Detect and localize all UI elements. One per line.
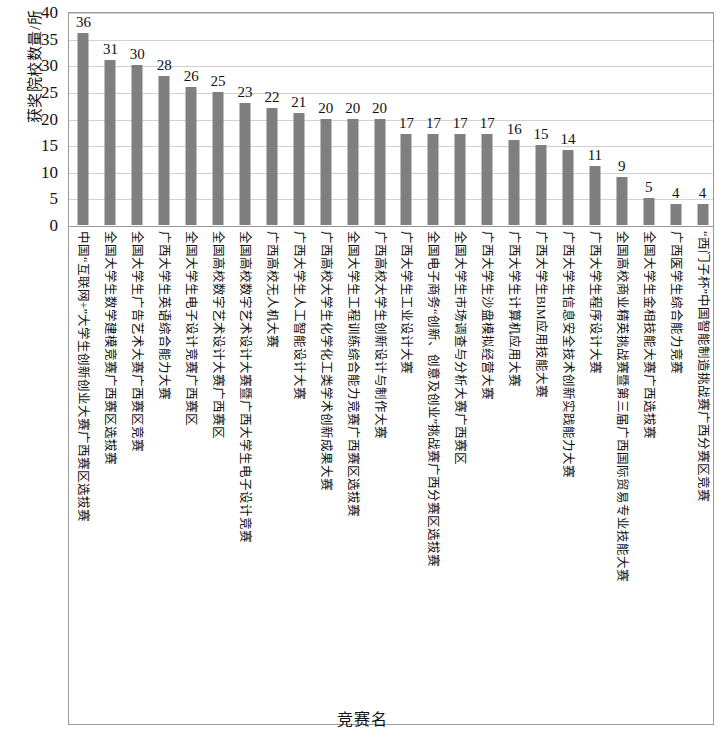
bar-value-label: 17 xyxy=(480,116,495,131)
x-axis-label-slot: 全国大学生广告艺术大赛广西赛区竞赛 xyxy=(124,225,150,695)
x-axis-label-slot: “西门子杯”中国智能制造挑战赛广西分赛区竞赛 xyxy=(690,225,716,695)
bar-slot[interactable]: 20 xyxy=(313,12,339,225)
bar-slot[interactable]: 15 xyxy=(528,12,554,225)
y-axis-tick-labels: 0510152025303540 xyxy=(0,12,66,225)
bar-slot[interactable]: 4 xyxy=(690,12,716,225)
bar-slot[interactable]: 11 xyxy=(582,12,608,225)
bar[interactable] xyxy=(213,92,224,225)
x-axis-category-label: 全国大学生工程训练综合能力竞赛广西赛区选拔赛 xyxy=(346,231,359,517)
y-axis-tick-label: 5 xyxy=(50,190,59,207)
x-axis-label-slot: 全国大学生金相技能大赛广西选拔赛 xyxy=(636,225,662,695)
bar-slot[interactable]: 20 xyxy=(340,12,366,225)
bar-slot[interactable]: 5 xyxy=(636,12,662,225)
x-axis-label-slot: 广西医学生综合能力竞赛 xyxy=(663,225,689,695)
x-axis-label-slot: 全国大学生市场调查与分析大赛广西赛区 xyxy=(447,225,473,695)
bar-slot[interactable]: 31 xyxy=(97,12,123,225)
x-axis-label-slot: 广西大学生英语综合能力大赛 xyxy=(151,225,177,695)
bar-value-label: 17 xyxy=(426,116,441,131)
bar-value-label: 15 xyxy=(534,127,549,142)
bar-value-label: 16 xyxy=(507,122,522,137)
bar-slot[interactable]: 14 xyxy=(555,12,581,225)
bar-slot[interactable]: 21 xyxy=(286,12,312,225)
bar[interactable] xyxy=(455,134,466,225)
x-axis-label-slot: 广西大学生程序设计大赛 xyxy=(582,225,608,695)
x-axis-category-label: 广西大学生工业设计大赛 xyxy=(400,231,413,374)
bar-slot[interactable]: 22 xyxy=(259,12,285,225)
bar-value-label: 21 xyxy=(291,95,306,110)
x-axis-category-label: 广西大学生计算机应用大赛 xyxy=(508,231,521,387)
bar-value-label: 20 xyxy=(345,101,360,116)
x-axis-category-label: 广西大学生英语综合能力大赛 xyxy=(158,231,171,400)
bar-slot[interactable]: 17 xyxy=(393,12,419,225)
bar[interactable] xyxy=(78,33,89,225)
bar-value-label: 17 xyxy=(453,116,468,131)
x-axis-label-slot: 全国高校商业精英挑战赛暨第三届广西国际贸易专业技能大赛 xyxy=(609,225,635,695)
bar[interactable] xyxy=(105,60,116,225)
bar[interactable] xyxy=(589,166,600,225)
bar[interactable] xyxy=(697,204,708,225)
bar-value-label: 30 xyxy=(130,47,145,62)
bar-slot[interactable]: 9 xyxy=(609,12,635,225)
bar[interactable] xyxy=(293,113,304,225)
bar[interactable] xyxy=(616,177,627,225)
x-axis-label-slot: 广西高校大学生创新设计与制作大赛 xyxy=(367,225,393,695)
bar-value-label: 14 xyxy=(560,132,575,147)
bar-slot[interactable]: 36 xyxy=(70,12,96,225)
x-axis-category-labels: 中国“互联网+”大学生创新创业大赛广西赛区选拔赛全国大学生数学建模竞赛广西赛区选… xyxy=(68,225,714,695)
x-axis-label-slot: 中国“互联网+”大学生创新创业大赛广西赛区选拔赛 xyxy=(70,225,96,695)
bar-slot[interactable]: 4 xyxy=(663,12,689,225)
bar[interactable] xyxy=(186,87,197,225)
bar[interactable] xyxy=(670,204,681,225)
bar[interactable] xyxy=(536,145,547,225)
bar[interactable] xyxy=(509,140,520,225)
x-axis-category-label: 全国电子商务“创新、创意及创业”挑战赛广西分赛区选拔赛 xyxy=(427,231,440,567)
bar[interactable] xyxy=(401,134,412,225)
x-axis-label-slot: 全国电子商务“创新、创意及创业”挑战赛广西分赛区选拔赛 xyxy=(420,225,446,695)
y-axis-tick-label: 10 xyxy=(41,163,58,180)
bar-slot[interactable]: 17 xyxy=(474,12,500,225)
bars-layer: 3631302826252322212020201717171716151411… xyxy=(68,12,714,225)
x-axis-category-label: 广西高校大学生创新设计与制作大赛 xyxy=(373,231,386,439)
x-axis-category-label: 全国高校数字艺术设计大赛暨广西大学生电子设计竞赛 xyxy=(239,231,252,543)
x-axis-category-label: 广西大学生BIM应用技能大赛 xyxy=(535,231,548,398)
bar-slot[interactable]: 20 xyxy=(367,12,393,225)
x-axis-category-label: 全国大学生金相技能大赛广西选拔赛 xyxy=(642,231,655,439)
bar-slot[interactable]: 23 xyxy=(232,12,258,225)
bar-slot[interactable]: 17 xyxy=(420,12,446,225)
bar[interactable] xyxy=(374,119,385,226)
x-axis-label-slot: 全国高校数字艺术设计大赛广西赛区 xyxy=(205,225,231,695)
bar[interactable] xyxy=(482,134,493,225)
x-axis-label-slot: 全国大学生电子设计竞赛广西赛区 xyxy=(178,225,204,695)
bar[interactable] xyxy=(239,103,250,225)
x-axis-category-label: 广西高校大学生化学化工类学术创新成果大赛 xyxy=(319,231,332,491)
bar-slot[interactable]: 26 xyxy=(178,12,204,225)
x-axis-label-slot: 广西大学生工业设计大赛 xyxy=(393,225,419,695)
bar-value-label: 26 xyxy=(184,69,199,84)
bar[interactable] xyxy=(562,150,573,225)
x-axis-category-label: 广西大学生信息安全技术创新实践能力大赛 xyxy=(562,231,575,478)
bar-slot[interactable]: 25 xyxy=(205,12,231,225)
x-axis-category-label: 广西大学生人工智能设计大赛 xyxy=(293,231,306,400)
x-axis-category-label: 广西医学生综合能力竞赛 xyxy=(669,231,682,374)
bar-slot[interactable]: 17 xyxy=(447,12,473,225)
bar[interactable] xyxy=(320,119,331,226)
bar-value-label: 20 xyxy=(318,101,333,116)
bar-slot[interactable]: 16 xyxy=(501,12,527,225)
bar[interactable] xyxy=(643,198,654,225)
bar-value-label: 31 xyxy=(103,42,118,57)
bar-slot[interactable]: 28 xyxy=(151,12,177,225)
x-axis-category-label: 广西大学生程序设计大赛 xyxy=(589,231,602,374)
bar-value-label: 22 xyxy=(264,90,279,105)
x-axis-title: 竞赛名 xyxy=(0,706,724,730)
bar-value-label: 17 xyxy=(399,116,414,131)
x-axis-category-label: 全国大学生数学建模竞赛广西赛区选拔赛 xyxy=(104,231,117,465)
bar[interactable] xyxy=(428,134,439,225)
bar[interactable] xyxy=(132,65,143,225)
bar[interactable] xyxy=(266,108,277,225)
bar[interactable] xyxy=(159,76,170,225)
bar-slot[interactable]: 30 xyxy=(124,12,150,225)
y-axis-tick-label: 30 xyxy=(41,57,58,74)
bar-value-label: 4 xyxy=(672,186,680,201)
bar-value-label: 11 xyxy=(588,148,602,163)
bar[interactable] xyxy=(347,119,358,226)
